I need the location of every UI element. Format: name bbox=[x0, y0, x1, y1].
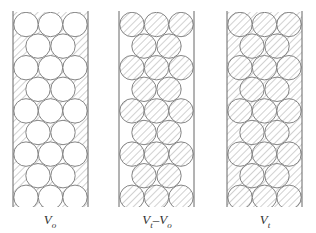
panel-vt-vo bbox=[119, 11, 194, 210]
label-vt: Vt bbox=[260, 212, 270, 230]
label-vt-minus-vo: Vt–Vo bbox=[142, 212, 171, 230]
packed-spheres-diagram bbox=[0, 0, 316, 233]
panel-vt bbox=[227, 11, 302, 210]
label-vo: Vo bbox=[44, 212, 56, 230]
panel-vo bbox=[13, 11, 88, 210]
